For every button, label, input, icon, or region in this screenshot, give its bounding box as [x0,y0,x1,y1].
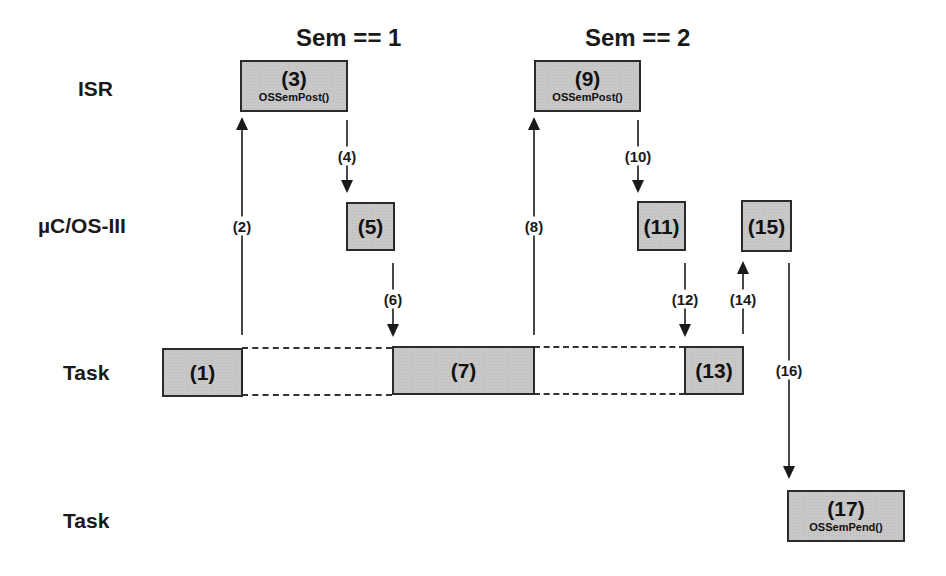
step-number: (9) [575,68,601,89]
function-name: OSSemPost() [259,91,329,103]
step-number: (17) [827,498,864,519]
step-number: (11) [643,216,679,237]
step-box-5: (5) [346,202,395,251]
step-number: (1) [190,362,216,383]
step-box-1: (1) [162,348,243,397]
arrow-label-10: (10) [625,147,652,166]
step-box-17: (17) OSSemPend() [787,490,905,542]
arrow-label-2: (2) [233,217,251,236]
arrow-label-12: (12) [672,290,699,309]
step-number: (13) [695,360,732,381]
step-number: (15) [748,216,785,237]
step-number: (3) [281,68,307,89]
step-box-3: (3) OSSemPost() [240,60,348,112]
arrow-label-14: (14) [730,290,757,309]
arrow-label-6: (6) [384,290,402,309]
step-box-9: (9) OSSemPost() [534,60,641,112]
step-box-15: (15) [741,200,792,252]
step-box-13: (13) [684,346,744,395]
step-number: (7) [451,360,477,381]
step-box-7: (7) [392,346,535,395]
step-number: (5) [358,216,384,237]
arrow-label-8: (8) [525,217,543,236]
arrow-label-16: (16) [776,361,803,380]
arrow-label-4: (4) [338,147,356,166]
step-box-11: (11) [637,201,686,251]
function-name: OSSemPost() [552,91,622,103]
function-name: OSSemPend() [809,521,882,533]
